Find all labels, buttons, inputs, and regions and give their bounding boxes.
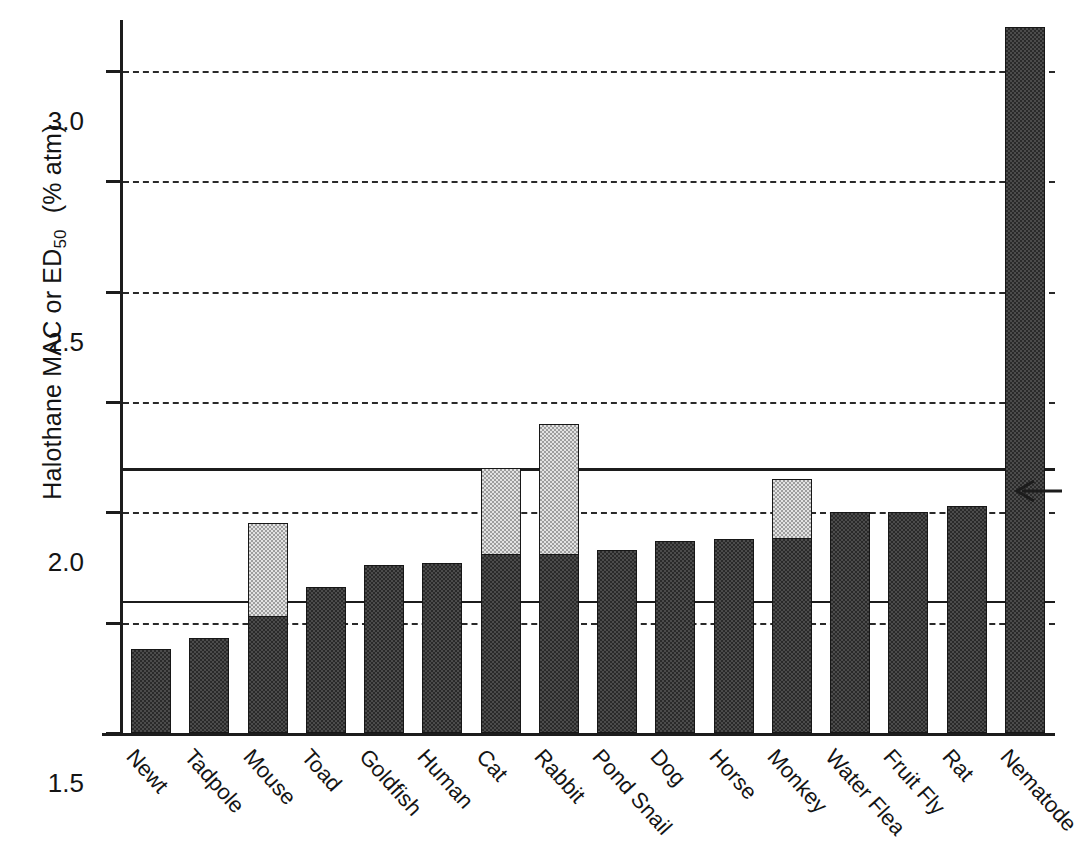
y-tick-mark: 2.5 [106, 180, 123, 183]
x-tick-label: Toad [295, 744, 346, 797]
bar[interactable] [539, 20, 579, 732]
x-tick-label: Cat [470, 744, 512, 787]
x-tick-label: Nematode [994, 744, 1075, 837]
y-tick-mark: 0.5 [106, 622, 123, 625]
bar-segment-dark [772, 538, 812, 733]
plot-area: 0.00.51.01.52.02.53.0 [120, 20, 1055, 735]
x-tick-label: Dog [645, 744, 691, 791]
bar-segment-dark [714, 539, 754, 733]
bar[interactable] [1005, 20, 1045, 732]
x-tick-label: Newt [121, 744, 174, 799]
bar-segment-dark [422, 563, 462, 733]
bar-segment-light [539, 424, 579, 556]
bar-segment-dark [248, 616, 288, 733]
bar-segment-dark [539, 554, 579, 733]
bar[interactable] [422, 20, 462, 732]
bar[interactable] [481, 20, 521, 732]
y-tick-label: 2.5 [48, 326, 84, 357]
y-axis-title-prefix: Halothane MAC or ED [38, 249, 66, 500]
y-tick-mark: 1.0 [106, 511, 123, 514]
bar-segment-dark [189, 638, 229, 733]
bar[interactable] [364, 20, 404, 732]
bar[interactable] [655, 20, 695, 732]
bar[interactable] [947, 20, 987, 732]
bar[interactable] [597, 20, 637, 732]
bar-segment-dark [1005, 27, 1045, 733]
bar-segment-dark [655, 541, 695, 733]
y-tick-label: 2.0 [48, 547, 84, 578]
bar-segment-dark [364, 565, 404, 733]
x-tick-label: Goldfish [354, 744, 427, 821]
y-tick-label: 3.0 [48, 105, 84, 136]
y-tick-label: 1.5 [48, 767, 84, 798]
bar-segment-dark [306, 587, 346, 733]
x-tick-label: Rabbit [528, 744, 590, 809]
bar[interactable] [131, 20, 171, 732]
y-axis-title: Halothane MAC or ED50(% atm) [38, 82, 78, 542]
bar-segment-dark [481, 554, 521, 733]
bar-segment-dark [131, 649, 171, 733]
bar-segment-dark [888, 512, 928, 733]
bar[interactable] [888, 20, 928, 732]
bar[interactable] [772, 20, 812, 732]
x-tick-label: Horse [703, 744, 762, 805]
y-axis-title-suffix: (% atm) [38, 124, 66, 213]
y-tick-mark: 2.0 [106, 291, 123, 294]
y-tick-mark: 3.0 [106, 70, 123, 73]
bar-segment-dark [597, 550, 637, 733]
bar-segment-light [481, 468, 521, 556]
bar[interactable] [189, 20, 229, 732]
x-tick-label: Monkey [761, 744, 832, 819]
x-axis-line [102, 733, 1055, 736]
bar[interactable] [830, 20, 870, 732]
bar-group [123, 20, 1055, 732]
bar-segment-dark [830, 512, 870, 733]
bar[interactable] [714, 20, 754, 732]
bar-segment-light [248, 523, 288, 617]
bar[interactable] [306, 20, 346, 732]
y-tick-mark: 0.0 [106, 732, 123, 735]
y-tick-mark: 1.5 [106, 401, 123, 404]
bar-segment-light [772, 479, 812, 539]
bar-segment-dark [947, 506, 987, 733]
halothane-mac-bar-chart: Halothane MAC or ED50(% atm) 0.00.51.01.… [0, 0, 1075, 857]
x-tick-label: Tadpole [179, 744, 250, 819]
x-tick-label: Rat [936, 744, 978, 787]
y-axis-title-subscript: 50 [51, 229, 70, 248]
nematode-annotation-arrow [1012, 478, 1064, 504]
bar[interactable] [248, 20, 288, 732]
